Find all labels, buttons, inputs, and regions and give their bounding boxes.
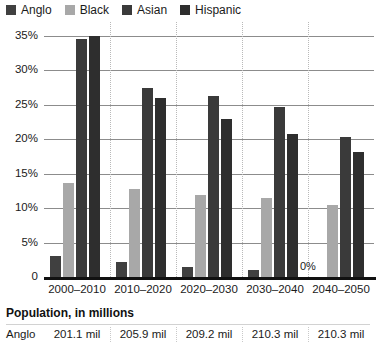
legend-swatch-icon — [122, 5, 132, 15]
legend-label: Anglo — [21, 4, 52, 16]
y-axis-tick-label: 10% — [0, 202, 38, 213]
table-row-label: Anglo — [6, 327, 35, 342]
table-title: Population, in millions — [6, 306, 134, 320]
legend-label: Hispanic — [195, 4, 241, 16]
table-cell: 209.2 mil — [176, 327, 242, 342]
bar-hispanic-2 — [221, 119, 232, 277]
bar-hispanic-1 — [155, 98, 166, 277]
bar-black-2 — [195, 195, 206, 277]
x-axis-label-2: 2020–2030 — [176, 283, 242, 296]
legend-swatch-icon — [65, 5, 75, 15]
bar-hispanic-4 — [353, 152, 364, 277]
group-separator — [110, 22, 111, 277]
table-cell: 210.3 mil — [242, 327, 308, 342]
bar-black-1 — [129, 189, 140, 277]
bar-asian-1 — [142, 88, 153, 277]
bar-anglo-2 — [182, 267, 193, 277]
table-divider — [6, 324, 370, 325]
bar-anglo-3 — [248, 270, 259, 277]
group-separator — [242, 22, 243, 277]
bar-anglo-0 — [50, 256, 61, 277]
x-axis-line — [44, 277, 376, 280]
y-axis-tick-label: 5% — [0, 237, 38, 248]
bar-asian-2 — [208, 96, 219, 277]
bar-black-4 — [327, 205, 338, 277]
bar-hispanic-0 — [89, 36, 100, 277]
x-axis-label-4: 2040–2050 — [308, 283, 374, 296]
bar-chart: 35%30%25%20%15%10%5%00% 2000–20102010–20… — [0, 22, 376, 302]
x-axis-label-0: 2000–2010 — [44, 283, 110, 296]
legend-label: Asian — [137, 4, 167, 16]
bar-asian-3 — [274, 107, 285, 277]
bar-asian-0 — [76, 39, 87, 277]
y-axis-tick-label: 0 — [0, 271, 38, 282]
legend-item-anglo: Anglo — [6, 4, 52, 16]
legend-item-asian: Asian — [122, 4, 167, 16]
legend-item-hispanic: Hispanic — [180, 4, 241, 16]
bar-black-0 — [63, 183, 74, 277]
legend-swatch-icon — [6, 5, 16, 15]
group-separator — [176, 22, 177, 277]
bar-anglo-1 — [116, 262, 127, 277]
chart-legend: AngloBlackAsianHispanic — [6, 2, 254, 18]
table-cell: 205.9 mil — [110, 327, 176, 342]
legend-swatch-icon — [180, 5, 190, 15]
x-axis-label-3: 2030–2040 — [242, 283, 308, 296]
bar-asian-4 — [340, 137, 351, 277]
y-axis-tick-label: 25% — [0, 99, 38, 110]
table-cell: 210.3 mil — [308, 327, 374, 342]
legend-label: Black — [80, 4, 109, 16]
table-row: Anglo201.1 mil205.9 mil209.2 mil210.3 mi… — [0, 327, 376, 342]
legend-item-black: Black — [65, 4, 109, 16]
zero-value-annotation: 0% — [300, 261, 316, 272]
population-table: Population, in millions Anglo201.1 mil20… — [0, 302, 376, 341]
x-axis-labels: 2000–20102010–20202020–20302030–20402040… — [44, 283, 376, 299]
group-separator — [308, 22, 309, 277]
x-axis-label-1: 2010–2020 — [110, 283, 176, 296]
y-axis-tick-label: 30% — [0, 64, 38, 75]
y-axis-tick-label: 20% — [0, 133, 38, 144]
table-cell: 201.1 mil — [44, 327, 110, 342]
bar-hispanic-3 — [287, 134, 298, 277]
y-axis-tick-label: 15% — [0, 168, 38, 179]
bar-black-3 — [261, 198, 272, 277]
y-axis-tick-label: 35% — [0, 30, 38, 41]
plot-area: 35%30%25%20%15%10%5%00% — [44, 36, 374, 277]
